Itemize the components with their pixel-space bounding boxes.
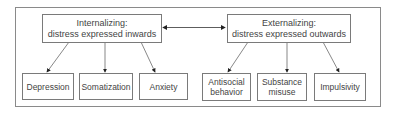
arrow-to-anxiety [141,42,155,72]
substance-label-line1: Substance [262,77,302,87]
substance-misuse-box: Substance misuse [257,73,307,101]
arrow-to-impulsivity [323,42,339,72]
anxiety-label: Anxiety [150,82,178,92]
antisocial-label-line2: behavior [208,87,244,97]
antisocial-behavior-box: Antisocial behavior [202,73,251,101]
arrow-to-depression [47,42,69,72]
externalizing-subtitle: distress expressed outwards [232,29,346,40]
internalizing-subtitle: distress expressed inwards [48,29,157,40]
internalizing-title: Internalizing: [48,18,157,29]
externalizing-box: Externalizing: distress expressed outwar… [227,14,351,43]
arrow-to-antisocial [228,42,248,72]
externalizing-title: Externalizing: [232,18,346,29]
somatization-box: Somatization [79,73,133,100]
anxiety-box: Anxiety [139,73,188,100]
impulsivity-box: Impulsivity [314,73,366,101]
substance-label-line2: misuse [262,87,302,97]
somatization-label: Somatization [81,82,130,92]
antisocial-label-line1: Antisocial [208,77,244,87]
internalizing-box: Internalizing: distress expressed inward… [42,14,162,43]
impulsivity-label: Impulsivity [320,82,360,92]
depression-box: Depression [22,73,74,100]
depression-label: Depression [27,82,70,92]
